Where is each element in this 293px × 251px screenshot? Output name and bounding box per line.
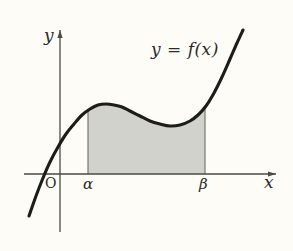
x-axis-label: x [264,174,274,191]
origin-label: O [45,176,56,190]
beta-tick-label: β [199,177,208,192]
integral-figure: y = f(x) y x O α β [0,0,293,251]
curve-equation-label: y = f(x) [151,41,219,58]
y-axis-label: y [44,27,54,44]
alpha-tick-label: α [83,177,93,192]
y-axis-arrowhead-icon [57,30,62,38]
